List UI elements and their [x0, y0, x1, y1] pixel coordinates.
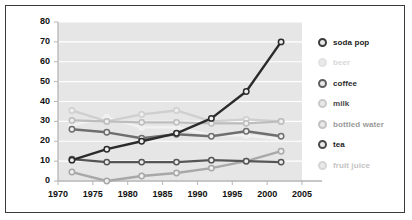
- legend-label: bottled water: [333, 120, 384, 129]
- legend-label: beer: [333, 58, 350, 67]
- y-tick-label: 40: [28, 96, 50, 106]
- y-tick-label: 60: [28, 56, 50, 66]
- chart-legend: soda popbeercoffeemilkbottled waterteafr…: [318, 32, 406, 176]
- legend-item-fruit-juice[interactable]: fruit juice: [318, 155, 406, 176]
- legend-marker-icon: [318, 99, 327, 108]
- x-tick-label: 1975: [76, 189, 110, 199]
- legend-item-soda-pop[interactable]: soda pop: [318, 32, 406, 53]
- legend-label: soda pop: [333, 38, 369, 47]
- x-tick-label: 1985: [146, 189, 180, 199]
- legend-item-tea[interactable]: tea: [318, 135, 406, 156]
- legend-marker-icon: [318, 58, 327, 67]
- legend-label: milk: [333, 99, 349, 108]
- legend-item-bottled-water[interactable]: bottled water: [318, 114, 406, 135]
- y-tick-label: 50: [28, 76, 50, 86]
- y-tick-label: 10: [28, 155, 50, 165]
- x-tick-label: 1990: [180, 189, 214, 199]
- y-tick-label: 80: [28, 16, 50, 26]
- legend-marker-icon: [318, 161, 327, 170]
- x-tick-label: 1995: [215, 189, 249, 199]
- y-tick-label: 0: [28, 175, 50, 185]
- legend-marker-icon: [318, 79, 327, 88]
- legend-marker-icon: [318, 38, 327, 47]
- y-tick-label: 70: [28, 36, 50, 46]
- legend-marker-icon: [318, 140, 327, 149]
- x-tick-label: 1970: [41, 189, 75, 199]
- legend-item-beer[interactable]: beer: [318, 53, 406, 74]
- legend-item-coffee[interactable]: coffee: [318, 73, 406, 94]
- legend-marker-icon: [318, 120, 327, 129]
- x-tick-label: 1980: [111, 189, 145, 199]
- x-tick-label: 2005: [285, 189, 319, 199]
- y-tick-label: 20: [28, 135, 50, 145]
- legend-label: tea: [333, 140, 345, 149]
- legend-item-milk[interactable]: milk: [318, 94, 406, 115]
- legend-label: fruit juice: [333, 161, 370, 170]
- x-tick-label: 2000: [250, 189, 284, 199]
- y-tick-label: 30: [28, 115, 50, 125]
- legend-label: coffee: [333, 79, 357, 88]
